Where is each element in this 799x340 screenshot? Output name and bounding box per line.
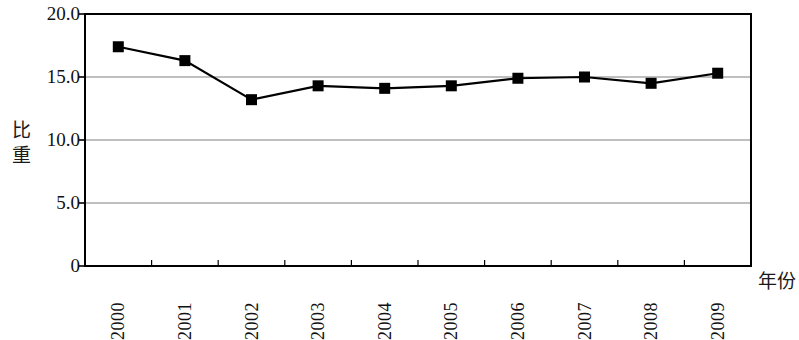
x-axis-tick-label: 2006 [509, 278, 527, 340]
data-point-marker [313, 80, 324, 91]
x-axis-tick-label: 2009 [709, 278, 727, 340]
data-point-marker [512, 73, 523, 84]
x-axis-tick-label: 2000 [109, 278, 127, 340]
data-point-marker [579, 72, 590, 83]
x-axis-tick-label: 2007 [576, 278, 594, 340]
x-axis-title-text: 年份 [758, 272, 796, 292]
x-axis-tick-label: 2004 [376, 278, 394, 340]
data-point-marker [379, 83, 390, 94]
data-point-marker [246, 94, 257, 105]
data-point-marker [446, 80, 457, 91]
x-axis-tick-label: 2005 [442, 278, 460, 340]
data-point-marker [712, 68, 723, 79]
data-point-marker [646, 78, 657, 89]
data-series-line [118, 47, 717, 100]
data-point-marker [113, 41, 124, 52]
x-axis-tick-label: 2008 [642, 278, 660, 340]
x-axis-tick-label: 2003 [309, 278, 327, 340]
x-axis-tick-label: 2002 [243, 278, 261, 340]
x-axis-tick-label: 2001 [176, 278, 194, 340]
data-point-marker [179, 55, 190, 66]
